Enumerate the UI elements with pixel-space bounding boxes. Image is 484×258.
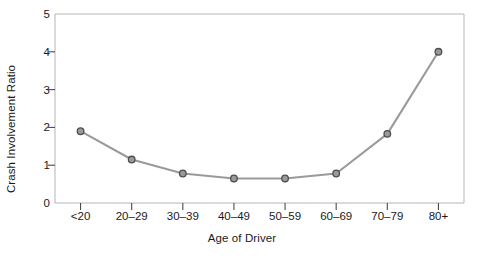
x-tick-label-5: 60–69 [320, 210, 352, 222]
x-tick-label-0: <20 [71, 210, 91, 222]
data-point-3 [231, 175, 238, 182]
data-point-4 [282, 175, 289, 182]
x-tick-label-4: 50–59 [269, 210, 301, 222]
data-point-6 [384, 131, 391, 138]
x-tick-label-6: 70–79 [371, 210, 403, 222]
data-point-1 [128, 156, 135, 163]
chart-figure: Crash Involvement Ratio 0 1 2 3 4 5 [0, 0, 484, 258]
x-tick-label-1: 20–29 [116, 210, 148, 222]
x-tick-marks [81, 203, 439, 210]
data-point-7 [435, 49, 442, 56]
data-point-2 [180, 170, 187, 177]
x-tick-label-3: 40–49 [218, 210, 250, 222]
x-tick-label-7: 80+ [429, 210, 449, 222]
data-series-crash-ratio [77, 49, 441, 182]
data-point-0 [77, 128, 84, 135]
data-point-5 [333, 170, 340, 177]
y-tick-marks [48, 52, 55, 165]
x-tick-label-2: 30–39 [167, 210, 199, 222]
data-markers [77, 49, 441, 182]
x-axis-title: Age of Driver [0, 232, 484, 244]
